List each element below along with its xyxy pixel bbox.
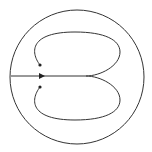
lower-arrow-icon — [38, 85, 41, 88]
flow-diagram — [0, 0, 152, 152]
center-arrow-icon — [39, 73, 45, 79]
upper-loop — [35, 32, 120, 76]
outer-circle — [10, 10, 144, 144]
upper-arrow-icon — [38, 63, 41, 66]
lower-loop — [35, 76, 120, 120]
